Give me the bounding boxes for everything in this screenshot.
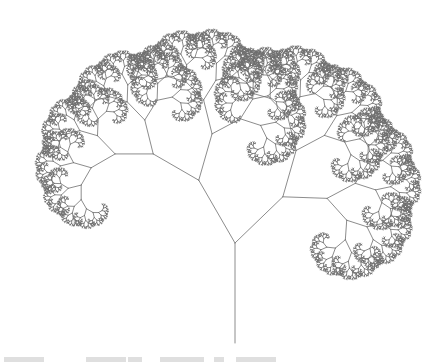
caption-glyph-fragment (214, 357, 224, 362)
caption-glyph-fragment (236, 357, 276, 362)
caption-glyph-fragment (4, 357, 44, 362)
caption-glyph-fragment (160, 357, 204, 362)
clipped-caption-text (0, 357, 439, 362)
fractal-tree-figure (0, 0, 439, 362)
caption-glyph-fragment (86, 357, 126, 362)
fractal-tree-canvas (0, 0, 439, 362)
caption-glyph-fragment (128, 357, 142, 362)
